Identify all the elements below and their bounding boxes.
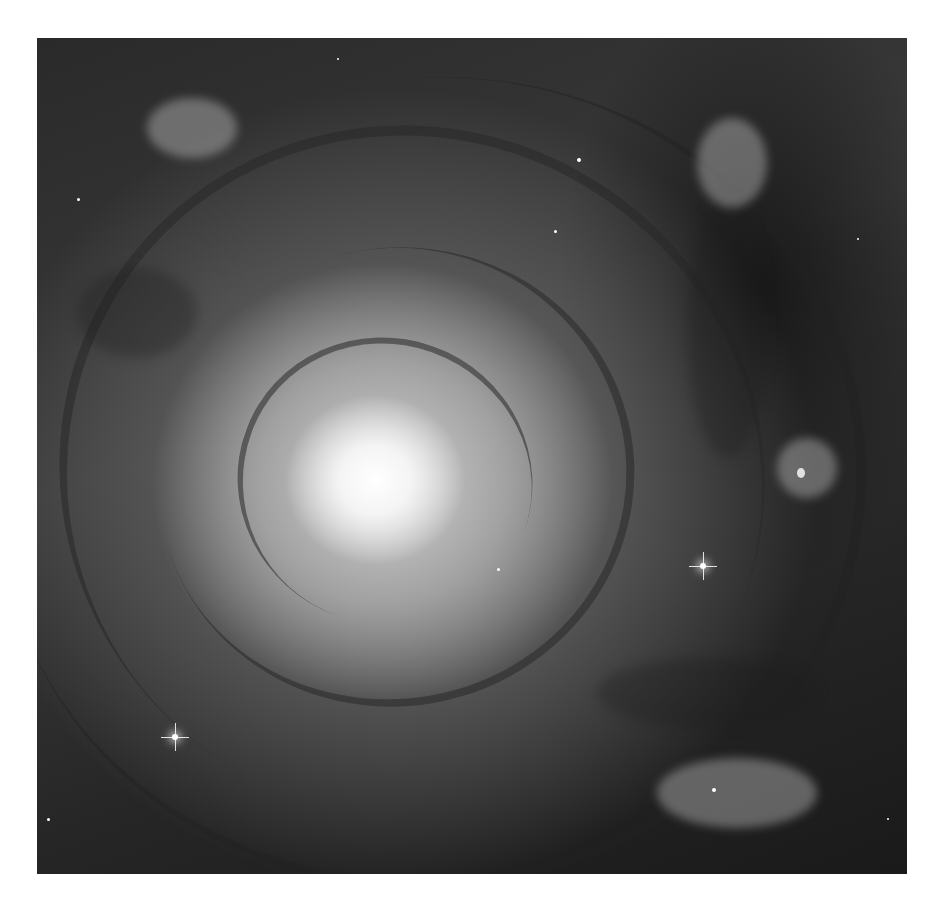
star-cluster xyxy=(147,98,237,158)
dust-lane xyxy=(687,198,767,458)
star-cluster xyxy=(777,438,837,498)
star xyxy=(712,788,716,792)
star-cluster xyxy=(697,118,767,208)
star xyxy=(77,198,80,201)
star xyxy=(797,468,805,478)
star xyxy=(857,238,859,240)
dust-lane xyxy=(77,268,197,358)
star xyxy=(554,230,557,233)
star xyxy=(887,818,889,820)
galaxy-photo xyxy=(37,38,907,874)
star xyxy=(577,158,581,162)
star xyxy=(47,818,50,821)
dust-lane xyxy=(597,658,817,728)
star xyxy=(337,58,339,60)
star-cluster xyxy=(657,758,817,828)
star xyxy=(497,568,500,571)
spiral-arm-outer-2 xyxy=(37,38,907,874)
